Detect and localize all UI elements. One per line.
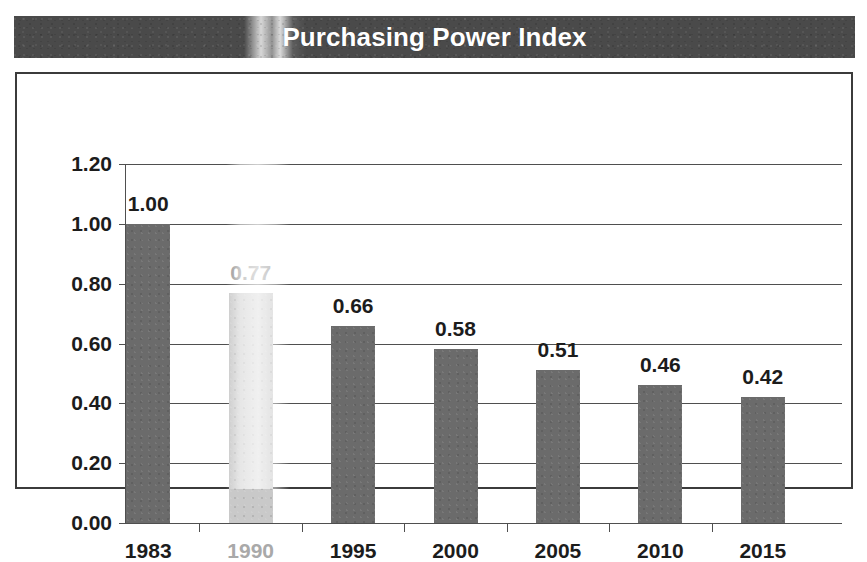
y-axis-label: 0.40 (71, 391, 112, 415)
y-axis-label: 0.00 (71, 511, 112, 535)
bar-value-label: 0.42 (742, 365, 783, 389)
bar (126, 224, 170, 523)
bar (434, 349, 478, 523)
y-axis-label: 0.60 (71, 332, 112, 356)
bar-value-label: 0.58 (435, 317, 476, 341)
y-axis-label: 0.20 (71, 451, 112, 475)
x-axis-label: 1990 (227, 539, 274, 562)
y-axis-tick (119, 403, 125, 404)
bar-value-label: 0.51 (537, 338, 578, 362)
x-axis-label: 2000 (432, 539, 479, 562)
x-axis-tick (609, 523, 610, 532)
y-axis-tick (119, 224, 125, 225)
bar-value-label: 0.77 (230, 261, 271, 285)
bar-value-label: 0.46 (640, 353, 681, 377)
bar (229, 293, 273, 523)
y-axis-label: 1.00 (71, 212, 112, 236)
y-axis-tick (119, 463, 125, 464)
x-axis-tick (199, 523, 200, 532)
x-axis-tick (507, 523, 508, 532)
gridline (125, 164, 842, 165)
x-axis-label: 1983 (125, 539, 172, 562)
y-axis-tick (119, 523, 125, 524)
x-axis-label: 2005 (535, 539, 582, 562)
chart-frame: 1.201.000.800.600.400.200.00 1.000.770.6… (15, 72, 853, 489)
plot-area: 1.201.000.800.600.400.200.00 1.000.770.6… (125, 164, 842, 523)
gridline (125, 224, 842, 225)
y-axis-label: 0.80 (71, 272, 112, 296)
y-axis-tick (119, 164, 125, 165)
x-axis-tick (404, 523, 405, 532)
bar (741, 397, 785, 523)
y-axis-tick (119, 284, 125, 285)
y-axis-label: 1.20 (71, 152, 112, 176)
bar (331, 326, 375, 523)
x-axis-label: 2010 (637, 539, 684, 562)
bar (638, 385, 682, 523)
x-axis-label: 2015 (739, 539, 786, 562)
y-axis-tick (119, 344, 125, 345)
bar (536, 370, 580, 523)
chart-title-banner: Purchasing Power Index (14, 16, 855, 58)
x-axis-tick (302, 523, 303, 532)
gridline (125, 523, 842, 524)
bar-value-label: 1.00 (128, 192, 169, 216)
bar-value-label: 0.66 (333, 294, 374, 318)
x-axis-tick (712, 523, 713, 532)
x-axis-label: 1995 (330, 539, 377, 562)
page-title: Purchasing Power Index (282, 22, 586, 53)
